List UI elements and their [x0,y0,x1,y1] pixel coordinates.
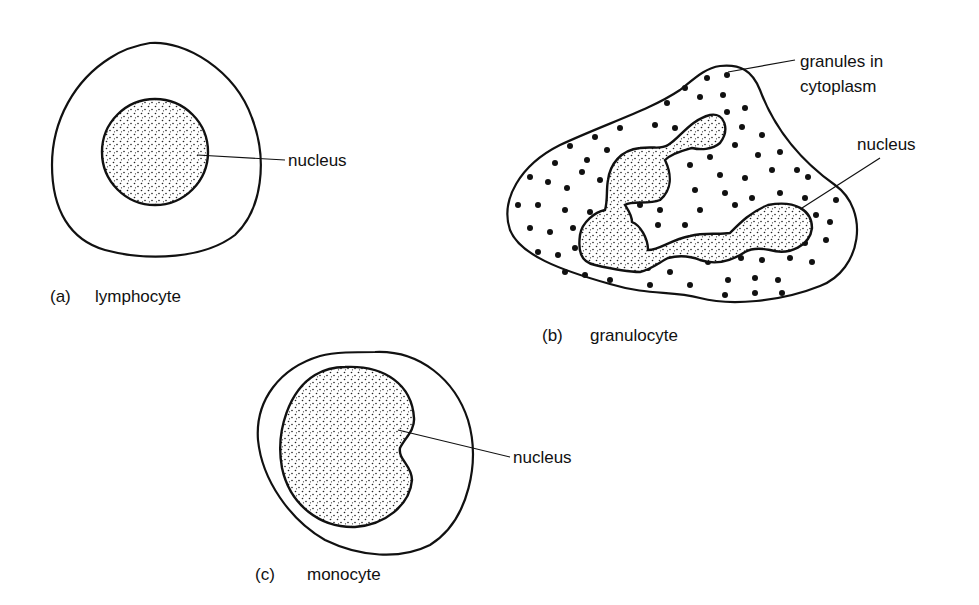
lymphocyte-nucleus-label: nucleus [288,151,347,170]
monocyte-nucleus-label: nucleus [513,448,572,467]
granules-label-line1: granules in [800,52,883,71]
monocyte-diagram: nucleus (c) monocyte [255,352,572,584]
monocyte-caption-tag: (c) [255,565,275,584]
granules-label-line2: cytoplasm [800,77,877,96]
granulocyte-nucleus-label: nucleus [857,135,916,154]
monocyte-caption: monocyte [307,565,381,584]
granulocyte-caption-tag: (b) [542,326,563,345]
lymphocyte-diagram: nucleus (a) lymphocyte [50,43,347,306]
monocyte-kidney-nucleus [280,367,414,527]
lymphocyte-caption-tag: (a) [50,287,71,306]
white-blood-cells-figure: nucleus (a) lymphocyte [0,0,979,605]
granulocyte-diagram: granules in cytoplasm nucleus (b) granul… [507,52,915,345]
lymphocyte-caption: lymphocyte [95,287,181,306]
lymphocyte-nucleus [102,99,208,205]
granulocyte-caption: granulocyte [590,326,678,345]
granulocyte-cell-membrane [507,66,857,302]
